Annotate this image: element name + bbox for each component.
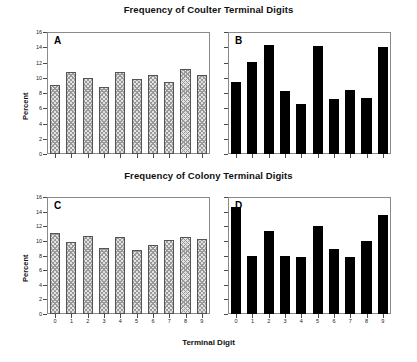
bar-3 xyxy=(99,248,109,314)
bar-9 xyxy=(378,215,388,314)
x-tick xyxy=(269,154,270,158)
bar-slot xyxy=(96,197,112,314)
bar-4 xyxy=(115,237,125,314)
panel-a-letter: A xyxy=(54,35,61,46)
bar-slot xyxy=(277,197,293,314)
y-tick-label: 8 xyxy=(39,253,42,259)
panel-c: C Percent 0246810121416 0123456789 xyxy=(47,197,210,314)
bar-slot xyxy=(293,32,309,154)
panel-d: D 0123456789 xyxy=(228,197,391,314)
x-tick xyxy=(169,154,170,158)
bar-slot xyxy=(80,32,96,154)
x-tick-label: 5 xyxy=(135,318,138,324)
bar-slot xyxy=(128,32,144,154)
bar-slot xyxy=(309,32,325,154)
bar-4 xyxy=(296,104,306,154)
bar-7 xyxy=(164,240,174,314)
panel-b-letter: B xyxy=(235,35,242,46)
bar-slot xyxy=(177,32,193,154)
panel-c-bars xyxy=(47,197,210,314)
bar-slot xyxy=(63,197,79,314)
y-tick-label: 14 xyxy=(36,44,42,50)
y-tick-label: 16 xyxy=(36,194,42,200)
y-tick-label: 16 xyxy=(36,29,42,35)
bar-6 xyxy=(148,245,158,314)
x-axis-title: Terminal Digit xyxy=(0,338,417,347)
x-tick-label: 2 xyxy=(267,318,270,324)
x-tick xyxy=(367,154,368,158)
bar-slot xyxy=(47,197,63,314)
panel-a-bars xyxy=(47,32,210,154)
bar-9 xyxy=(197,239,207,314)
x-tick-label: 0 xyxy=(235,318,238,324)
bar-slot xyxy=(194,197,210,314)
bar-slot xyxy=(342,32,358,154)
bar-0 xyxy=(50,85,60,154)
bar-3 xyxy=(280,256,290,314)
bar-3 xyxy=(280,91,290,154)
x-tick-label: 4 xyxy=(119,318,122,324)
bar-slot xyxy=(47,32,63,154)
x-tick-label: 7 xyxy=(168,318,171,324)
panel-d-bars xyxy=(228,197,391,314)
x-tick xyxy=(285,154,286,158)
x-tick-label: 8 xyxy=(184,318,187,324)
bar-9 xyxy=(378,47,388,154)
x-tick xyxy=(104,154,105,158)
bar-2 xyxy=(83,78,93,154)
bar-2 xyxy=(264,45,274,154)
bar-0 xyxy=(50,233,60,314)
bar-slot xyxy=(145,32,161,154)
y-tick xyxy=(224,314,228,315)
x-tick xyxy=(120,154,121,158)
y-tick-label: 0 xyxy=(39,151,42,157)
x-tick xyxy=(383,154,384,158)
bar-1 xyxy=(247,256,257,315)
x-tick xyxy=(334,154,335,158)
panel-b-bars xyxy=(228,32,391,154)
bar-2 xyxy=(264,231,274,314)
bar-slot xyxy=(96,32,112,154)
x-tick xyxy=(153,154,154,158)
y-tick xyxy=(43,314,47,315)
bar-6 xyxy=(148,75,158,154)
x-tick xyxy=(186,154,187,158)
x-tick-label: 7 xyxy=(349,318,352,324)
bar-slot xyxy=(309,197,325,314)
x-tick xyxy=(301,154,302,158)
x-tick xyxy=(318,154,319,158)
panel-b: B xyxy=(228,32,391,154)
bar-slot xyxy=(128,197,144,314)
x-tick-label: 3 xyxy=(284,318,287,324)
y-tick-label: 12 xyxy=(36,223,42,229)
x-tick-label: 2 xyxy=(86,318,89,324)
y-tick-label: 2 xyxy=(39,136,42,142)
bar-slot xyxy=(194,32,210,154)
bar-slot xyxy=(293,197,309,314)
bar-slot xyxy=(375,197,391,314)
bar-5 xyxy=(313,226,323,314)
bar-2 xyxy=(83,236,93,314)
bar-slot xyxy=(228,32,244,154)
bar-slot xyxy=(228,197,244,314)
bar-0 xyxy=(231,82,241,154)
x-tick-label: 5 xyxy=(316,318,319,324)
bar-8 xyxy=(180,237,190,315)
bar-slot xyxy=(161,32,177,154)
x-tick xyxy=(350,154,351,158)
y-tick-label: 10 xyxy=(36,75,42,81)
bar-slot xyxy=(277,32,293,154)
bar-1 xyxy=(66,242,76,314)
bar-8 xyxy=(361,241,371,314)
bar-8 xyxy=(180,69,190,154)
bar-slot xyxy=(375,32,391,154)
bar-slot xyxy=(145,197,161,314)
bar-7 xyxy=(164,82,174,154)
y-tick xyxy=(43,154,47,155)
panel-c-letter: C xyxy=(54,200,61,211)
bar-slot xyxy=(326,197,342,314)
chart-title-bottom: Frequency of Colony Terminal Digits xyxy=(0,170,417,181)
bar-6 xyxy=(329,99,339,154)
bar-slot xyxy=(244,197,260,314)
y-tick-label: 10 xyxy=(36,238,42,244)
